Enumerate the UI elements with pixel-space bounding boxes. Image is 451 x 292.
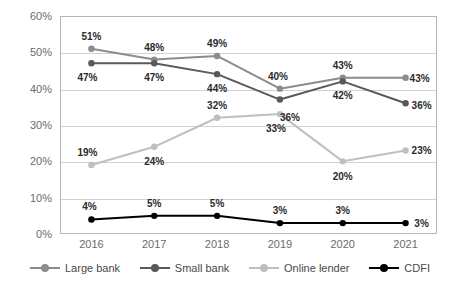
series-marker [402, 220, 408, 226]
legend-label: Online lender [284, 262, 349, 274]
series-line [91, 49, 405, 89]
data-point-label: 36% [412, 100, 432, 111]
legend-item-online-lender[interactable]: Online lender [249, 262, 349, 274]
data-point-label: 47% [144, 72, 164, 83]
data-point-label: 47% [77, 72, 97, 83]
data-point-label: 40% [268, 70, 288, 81]
data-point-label: 43% [410, 72, 430, 83]
data-point-label: 3% [336, 205, 350, 216]
series-marker [340, 158, 346, 164]
data-point-label: 44% [207, 83, 227, 94]
data-point-label: 23% [412, 145, 432, 156]
data-point-label: 24% [144, 155, 164, 166]
series-marker [340, 220, 346, 226]
series-line [91, 114, 405, 165]
legend-label: Small bank [175, 262, 229, 274]
data-point-label: 49% [207, 37, 227, 48]
legend-item-large-bank[interactable]: Large bank [30, 262, 120, 274]
legend-swatch-icon [30, 263, 60, 273]
data-point-label: 36% [280, 112, 300, 123]
series-marker [151, 60, 157, 66]
series-marker [277, 220, 283, 226]
legend-label: Large bank [65, 262, 120, 274]
legend-swatch-icon [140, 263, 170, 273]
data-point-label: 19% [77, 146, 97, 157]
series-marker [402, 100, 408, 106]
legend-item-cdfi[interactable]: CDFI [369, 262, 430, 274]
series-marker [340, 78, 346, 84]
legend-item-small-bank[interactable]: Small bank [140, 262, 229, 274]
series-marker [88, 216, 94, 222]
legend-label: CDFI [404, 262, 430, 274]
series-marker [88, 162, 94, 168]
data-point-label: 3% [414, 218, 428, 229]
series-marker [214, 115, 220, 121]
data-point-label: 3% [273, 205, 287, 216]
data-point-label: 48% [144, 41, 164, 52]
series-marker [277, 96, 283, 102]
series-marker [88, 60, 94, 66]
data-point-label: 43% [333, 59, 353, 70]
series-marker [214, 53, 220, 59]
series-marker [402, 147, 408, 153]
chart-legend: Large bankSmall bankOnline lenderCDFI [30, 262, 430, 274]
chart-container: 0%10%20%30%40%50%60% 2016201720182019202… [0, 0, 451, 292]
data-point-label: 20% [333, 171, 353, 182]
data-point-label: 51% [81, 30, 101, 41]
legend-swatch-icon [369, 263, 399, 273]
series-marker [88, 46, 94, 52]
data-point-label: 33% [266, 123, 286, 134]
series-marker [214, 213, 220, 219]
series-line [91, 63, 405, 103]
series-marker [151, 144, 157, 150]
data-point-label: 4% [82, 201, 96, 212]
data-point-label: 5% [210, 197, 224, 208]
series-marker [151, 213, 157, 219]
series-marker [402, 75, 408, 81]
data-point-label: 42% [333, 90, 353, 101]
series-marker [277, 85, 283, 91]
data-point-label: 5% [147, 197, 161, 208]
series-marker [214, 71, 220, 77]
data-point-label: 32% [207, 99, 227, 110]
legend-swatch-icon [249, 263, 279, 273]
series-line [91, 216, 405, 223]
